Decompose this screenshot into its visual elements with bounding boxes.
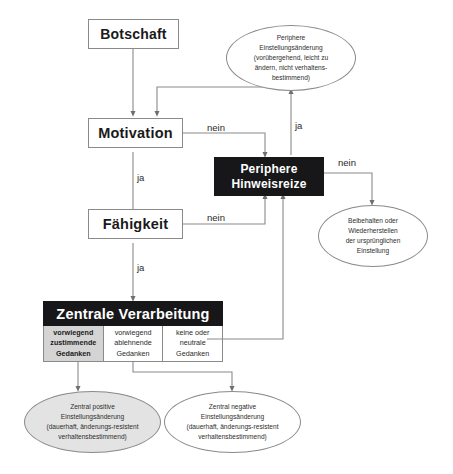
edge-label-periphere-ja: ja (295, 120, 302, 131)
outcome-zentral-positive[interactable]: Zentral positive Einstellungsänderung (d… (24, 391, 161, 453)
cell-neutrale-line2: neutrale (180, 338, 206, 348)
outcome-positive-line4: verhaltensbestimmend) (46, 432, 138, 442)
edge-feedback-to-motivation (157, 87, 289, 114)
cell-ablehnende-line1: vorwiegend (115, 328, 152, 338)
outcome-negative-line1: Zentral negative (186, 402, 278, 412)
node-zentrale-verarbeitung[interactable]: Zentrale Verarbeitung vorwiegend zustimm… (43, 301, 223, 362)
cell-ablehnende-gedanken[interactable]: vorwiegend ablehnende Gedanken (104, 326, 164, 361)
outcome-positive-line2: Einstellungsänderung (46, 412, 138, 422)
cell-zustimmende-line1: vorwiegend (53, 328, 93, 338)
node-faehigkeit[interactable]: Fähigkeit (88, 209, 183, 239)
outcome-beibehalten-line2: Wiederherstellen (346, 226, 401, 236)
edge-ablehnende-to-negative (133, 362, 232, 389)
outcome-periphere-line2: Einstellungsänderung (254, 43, 328, 53)
outcome-beibehalten-line1: Beibehalten oder (346, 216, 401, 226)
edge-label-faehigkeit-ja: ja (137, 262, 144, 273)
cell-zustimmende-line3: Gedanken (56, 349, 91, 359)
cell-ablehnende-line3: Gedanken (116, 349, 149, 359)
outcome-positive-line3: (dauerhaft, änderungs-resistent (46, 422, 138, 432)
outcome-beibehalten[interactable]: Beibehalten oder Wiederherstellen der ur… (318, 205, 428, 267)
outcome-periphere-line4: ändern, nicht verhaltens- (254, 63, 328, 73)
outcome-periphere-einstellungsaenderung[interactable]: Periphere Einstellungsänderung (vorüberg… (226, 25, 356, 91)
cell-zustimmende-line2: zustimmende (50, 338, 96, 348)
edge-motivation-nein (183, 133, 265, 155)
outcome-periphere-line1: Periphere (254, 33, 328, 43)
outcome-zentral-negative-text: Zentral negative Einstellungsänderung (d… (178, 402, 286, 442)
edge-label-periphere-nein: nein (338, 157, 356, 168)
cell-neutrale-line3: Gedanken (176, 349, 209, 359)
outcome-beibehalten-line4: Einstellung (346, 246, 401, 256)
outcome-periphere-text: Periphere Einstellungsänderung (vorüberg… (246, 33, 336, 82)
outcome-beibehalten-text: Beibehalten oder Wiederherstellen der ur… (338, 216, 409, 256)
node-periphere-line2: Hinweisreize (231, 177, 306, 192)
node-botschaft-label: Botschaft (100, 26, 166, 42)
outcome-periphere-line3: (vorübergehend, leicht zu (254, 53, 328, 63)
outcome-negative-line2: Einstellungsänderung (186, 412, 278, 422)
outcome-periphere-line5: bestimmend) (254, 73, 328, 83)
node-periphere-hinweisreize[interactable]: Periphere Hinweisreize (214, 157, 324, 196)
outcome-zentral-negative[interactable]: Zentral negative Einstellungsänderung (d… (164, 391, 301, 453)
node-motivation-label: Motivation (98, 125, 173, 141)
node-botschaft[interactable]: Botschaft (88, 19, 179, 49)
cell-ablehnende-line2: ablehnende (114, 338, 152, 348)
edge-periphere-nein (324, 173, 372, 203)
outcome-positive-line1: Zentral positive (46, 402, 138, 412)
edge-label-faehigkeit-nein: nein (207, 212, 225, 223)
cell-neutrale-line1: keine oder (176, 328, 210, 338)
node-periphere-line1: Periphere (231, 162, 306, 177)
outcome-beibehalten-line3: der ursprünglichen (346, 236, 401, 246)
edge-label-motivation-nein: nein (207, 122, 225, 133)
zentrale-verarbeitung-columns: vorwiegend zustimmende Gedanken vorwiege… (43, 326, 223, 362)
node-motivation[interactable]: Motivation (88, 118, 183, 148)
node-faehigkeit-label: Fähigkeit (103, 216, 168, 232)
zentrale-verarbeitung-header: Zentrale Verarbeitung (43, 301, 223, 326)
cell-neutrale-gedanken[interactable]: keine oder neutrale Gedanken (163, 326, 222, 361)
edge-label-motivation-ja: ja (137, 172, 144, 183)
diagram-canvas: Botschaft Motivation Fähigkeit Periphere… (0, 0, 453, 474)
outcome-negative-line4: verhaltensbestimmend) (186, 432, 278, 442)
outcome-negative-line3: (dauerhaft, änderungs-resistent (186, 422, 278, 432)
outcome-zentral-positive-text: Zentral positive Einstellungsänderung (d… (38, 402, 146, 442)
cell-zustimmende-gedanken[interactable]: vorwiegend zustimmende Gedanken (44, 326, 104, 361)
